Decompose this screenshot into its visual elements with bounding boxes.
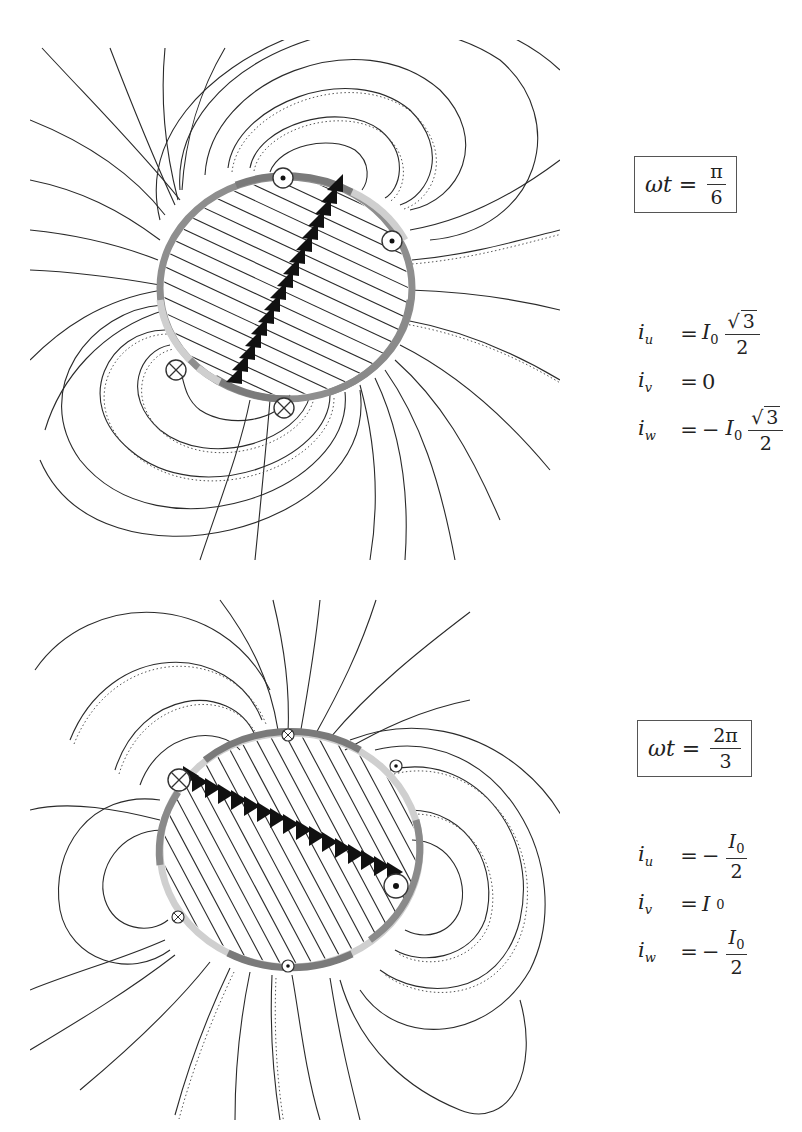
panel-pi-over-6: ωt = π 6 iu = I0 √3 2 iv = 0 iw = xyxy=(0,0,802,570)
omega-t-text: ωt = xyxy=(648,736,700,761)
external-field-lines xyxy=(30,15,560,560)
equation-iw: iw = − I0 √3 2 xyxy=(638,406,783,454)
conductor-cross-1 xyxy=(168,769,190,791)
conductor-dot-1 xyxy=(384,874,408,898)
dotted-field-lines xyxy=(104,93,562,481)
conductor-cross-3 xyxy=(172,911,184,923)
phase-angle-label-1: ωt = π 6 xyxy=(634,156,737,213)
equation-iu: iu = I0 √3 2 xyxy=(638,310,783,358)
field-direction-arrows xyxy=(226,174,343,384)
equation-iw: iw = − I0 2 xyxy=(638,928,747,976)
conductor-cross-2 xyxy=(282,729,294,741)
phase-angle-label-2: ωt = 2π 3 xyxy=(637,720,752,777)
conductor-cross-1 xyxy=(166,360,186,380)
equation-iv: iv = I0 xyxy=(638,880,747,928)
conductor-dot-2 xyxy=(390,760,402,772)
conductor-dot-3 xyxy=(282,960,294,972)
current-equations-2: iu = − I0 2 iv = I0 iw = − I0 2 xyxy=(638,832,747,976)
omega-t-text: ωt = xyxy=(645,172,697,197)
conductor-dot-1 xyxy=(273,168,293,188)
equation-iv: iv = 0 xyxy=(638,358,783,406)
phase-fraction: π 6 xyxy=(707,161,726,208)
field-diagram-1 xyxy=(0,0,802,570)
conductor-cross-2 xyxy=(274,398,294,418)
external-field-lines xyxy=(30,600,582,1120)
equation-iu: iu = − I0 2 xyxy=(638,832,747,880)
conductor-dot-2 xyxy=(382,231,402,251)
stator-ring xyxy=(159,732,420,968)
current-equations-1: iu = I0 √3 2 iv = 0 iw = − I0 √3 xyxy=(638,310,783,454)
panel-two-pi-over-3: ωt = 2π 3 iu = − I0 2 iv = I0 iw = xyxy=(0,570,802,1132)
phase-fraction: 2π 3 xyxy=(710,725,741,772)
